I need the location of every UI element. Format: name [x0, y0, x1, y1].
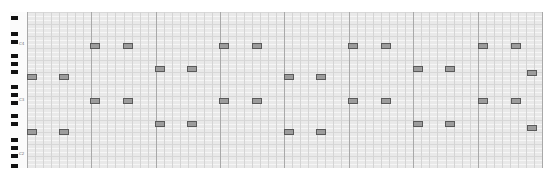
pitch-row-line [27, 28, 543, 29]
midi-note[interactable] [284, 74, 294, 80]
midi-note[interactable] [478, 98, 488, 104]
midi-note[interactable] [252, 98, 262, 104]
beat-line [470, 12, 471, 168]
midi-note[interactable] [59, 74, 69, 80]
pitch-row-line [27, 72, 543, 73]
midi-note[interactable] [381, 98, 391, 104]
midi-note[interactable] [511, 43, 521, 49]
pitch-row-line [27, 52, 543, 53]
beat-line [67, 12, 68, 168]
beat-line [124, 12, 125, 168]
midi-note[interactable] [527, 125, 537, 131]
midi-note[interactable] [219, 43, 229, 49]
pitch-row-line [27, 92, 543, 93]
midi-note[interactable] [381, 43, 391, 49]
piano-roll: C4C3C2 [10, 12, 543, 168]
beat-line [188, 12, 189, 168]
pitch-row-line [27, 100, 543, 101]
black-key[interactable] [11, 138, 18, 142]
black-key[interactable] [11, 154, 18, 158]
midi-note[interactable] [155, 121, 165, 127]
beat-line [373, 12, 374, 168]
beat-line [132, 12, 133, 168]
beat-line [454, 12, 455, 168]
beat-line [204, 12, 205, 168]
midi-note[interactable] [284, 129, 294, 135]
pitch-row-line [27, 112, 543, 113]
beat-line [494, 12, 495, 168]
pitch-row-line [27, 124, 543, 125]
beat-line [260, 12, 261, 168]
midi-note[interactable] [90, 43, 100, 49]
black-key[interactable] [11, 122, 18, 126]
midi-note[interactable] [59, 129, 69, 135]
black-key[interactable] [11, 146, 18, 150]
pitch-row-line [27, 24, 543, 25]
black-key[interactable] [11, 70, 18, 74]
black-key[interactable] [11, 85, 18, 89]
midi-note[interactable] [187, 121, 197, 127]
beat-line [397, 12, 398, 168]
midi-note[interactable] [348, 43, 358, 49]
beat-line [365, 12, 366, 168]
pitch-row-line [27, 160, 543, 161]
midi-note[interactable] [445, 121, 455, 127]
midi-note[interactable] [511, 98, 521, 104]
bar-line [413, 12, 414, 168]
beat-line [140, 12, 141, 168]
midi-note[interactable] [252, 43, 262, 49]
midi-note[interactable] [90, 98, 100, 104]
midi-note[interactable] [316, 74, 326, 80]
pitch-row-line [27, 40, 543, 41]
black-key[interactable] [11, 62, 18, 66]
beat-line [172, 12, 173, 168]
black-key[interactable] [11, 93, 18, 97]
pitch-row-line [27, 140, 543, 141]
midi-note[interactable] [445, 66, 455, 72]
beat-line [115, 12, 116, 168]
beat-line [317, 12, 318, 168]
pitch-row-line [27, 56, 543, 57]
beat-line [510, 12, 511, 168]
midi-note[interactable] [413, 66, 423, 72]
beat-line [196, 12, 197, 168]
black-key[interactable] [11, 114, 18, 118]
black-key[interactable] [11, 101, 18, 105]
black-key[interactable] [11, 54, 18, 58]
pitch-row-line [27, 20, 543, 21]
midi-note[interactable] [155, 66, 165, 72]
black-key[interactable] [11, 164, 18, 168]
beat-line [421, 12, 422, 168]
midi-note[interactable] [123, 98, 133, 104]
pitch-row-line [27, 120, 543, 121]
pitch-row-line [27, 88, 543, 89]
midi-note[interactable] [527, 70, 537, 76]
beat-line [381, 12, 382, 168]
bar-line [156, 12, 157, 168]
midi-note[interactable] [27, 129, 37, 135]
beat-line [35, 12, 36, 168]
midi-note[interactable] [123, 43, 133, 49]
black-key[interactable] [11, 32, 18, 36]
midi-note[interactable] [413, 121, 423, 127]
beat-line [502, 12, 503, 168]
black-key[interactable] [11, 16, 18, 20]
pitch-row-line [27, 44, 543, 45]
beat-line [43, 12, 44, 168]
midi-note[interactable] [187, 66, 197, 72]
piano-keyboard[interactable]: C4C3C2 [10, 12, 28, 168]
pitch-row-line [27, 48, 543, 49]
beat-line [429, 12, 430, 168]
midi-note[interactable] [27, 74, 37, 80]
pitch-row-line [27, 32, 543, 33]
note-grid[interactable] [27, 12, 543, 168]
midi-note[interactable] [316, 129, 326, 135]
pitch-row-line [27, 84, 543, 85]
black-key[interactable] [11, 40, 18, 44]
midi-note[interactable] [348, 98, 358, 104]
beat-line [228, 12, 229, 168]
beat-line [164, 12, 165, 168]
midi-note[interactable] [219, 98, 229, 104]
midi-note[interactable] [478, 43, 488, 49]
beat-line [357, 12, 358, 168]
